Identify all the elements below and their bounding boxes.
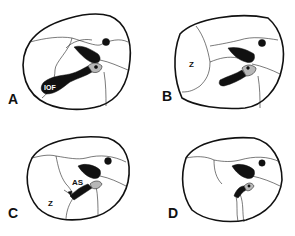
panel-c-label: C	[8, 205, 18, 221]
panel-a-outline	[23, 14, 130, 109]
panel-d-upper-foramen	[232, 164, 255, 178]
panel-c-upper-foramen	[78, 164, 101, 178]
panel-a: IOF A	[8, 14, 130, 109]
panel-a-iof-label: IOF	[44, 84, 56, 91]
panel-a-label: A	[8, 91, 18, 107]
panel-d-label: D	[168, 205, 178, 221]
panel-b-z-label: Z	[189, 60, 194, 69]
panel-c-small-foramen	[105, 158, 112, 165]
panel-d-outline	[183, 138, 282, 222]
panel-d: D	[168, 138, 282, 222]
panel-c-z-label: Z	[48, 199, 53, 208]
panel-b: Z B	[162, 16, 283, 109]
panel-a-small-foramen	[102, 38, 109, 45]
panel-c-as-label: AS	[72, 178, 84, 187]
panel-b-small-foramen	[258, 39, 265, 46]
panel-b-label: B	[162, 88, 172, 104]
panel-c: AS Z C	[8, 137, 129, 221]
panel-d-small-foramen	[259, 160, 265, 166]
figure-canvas: IOF A Z B AS Z C	[0, 0, 295, 236]
panel-a-upper-foramen	[74, 46, 100, 63]
panel-c-arrowhead	[68, 191, 72, 196]
panel-b-upper-foramen	[228, 47, 255, 62]
